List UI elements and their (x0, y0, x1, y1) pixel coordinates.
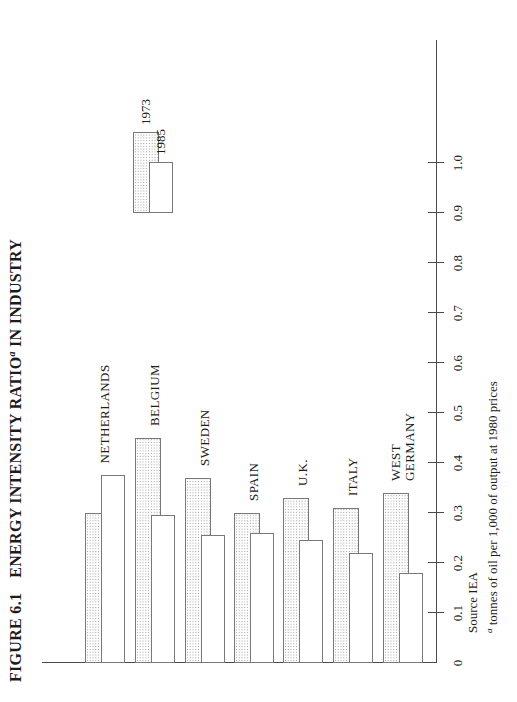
footnote-superscript: a (484, 629, 494, 634)
country-label: SPAIN (232, 463, 276, 501)
figure-title-text: ENERGY INTENSITY RATIO (7, 357, 24, 578)
footnote-text: tonnes of oil per 1,000 of output at 198… (485, 381, 500, 628)
axis-tick (428, 312, 444, 313)
legend-label-1973: 1973 (133, 99, 159, 125)
axis-tick (428, 162, 444, 163)
country-label: U.K. (281, 459, 325, 486)
rotated-page: FIGURE 6.1ENERGY INTENSITY RATIOa IN IND… (0, 0, 517, 702)
axis-tick-label: 1.0 (450, 141, 466, 185)
bar-1985 (151, 516, 175, 664)
axis-tick (428, 462, 444, 463)
source-line: Source IEA (464, 381, 481, 633)
figure-title-superscript: a (6, 351, 17, 356)
country-label: ITALY (331, 457, 375, 496)
legend-label-1985: 1985 (149, 129, 173, 155)
axis-tick (428, 262, 444, 263)
legend-bar-1985 (149, 162, 173, 213)
figure-title: FIGURE 6.1ENERGY INTENSITY RATIOa IN IND… (6, 239, 25, 682)
bar-1985 (399, 573, 423, 663)
bar-1985 (250, 533, 274, 663)
axis-tick-label: 0.7 (450, 291, 466, 335)
figure-canvas: FIGURE 6.1ENERGY INTENSITY RATIOa IN IND… (0, 0, 517, 702)
axis-tick (428, 412, 444, 413)
bar-1985 (299, 541, 323, 664)
footnote-line: a tonnes of oil per 1,000 of output at 1… (481, 381, 501, 633)
bar-1985 (349, 553, 373, 663)
axis-tick (428, 562, 444, 563)
axis-tick-label: 0 (450, 641, 466, 685)
axis-tick (428, 212, 444, 213)
figure-title-tail: IN INDUSTRY (7, 239, 24, 351)
country-label: WEST GERMANY (381, 412, 425, 481)
x-axis-line (436, 40, 437, 663)
axis-tick (428, 612, 444, 613)
axis-tick (428, 512, 444, 513)
country-label: NETHERLANDS (83, 364, 127, 463)
bar-1985 (201, 536, 225, 664)
figure-number: FIGURE 6.1 (7, 593, 25, 682)
source-block: Source IEA a tonnes of oil per 1,000 of … (464, 381, 501, 633)
bar-1985 (101, 476, 125, 664)
axis-tick (428, 362, 444, 363)
axis-tick-label: 0.6 (450, 341, 466, 385)
country-label: SWEDEN (183, 409, 227, 466)
axis-tick-label: 0.8 (450, 241, 466, 285)
country-label: BELGIUM (133, 364, 177, 426)
axis-tick-label: 0.9 (450, 191, 466, 235)
